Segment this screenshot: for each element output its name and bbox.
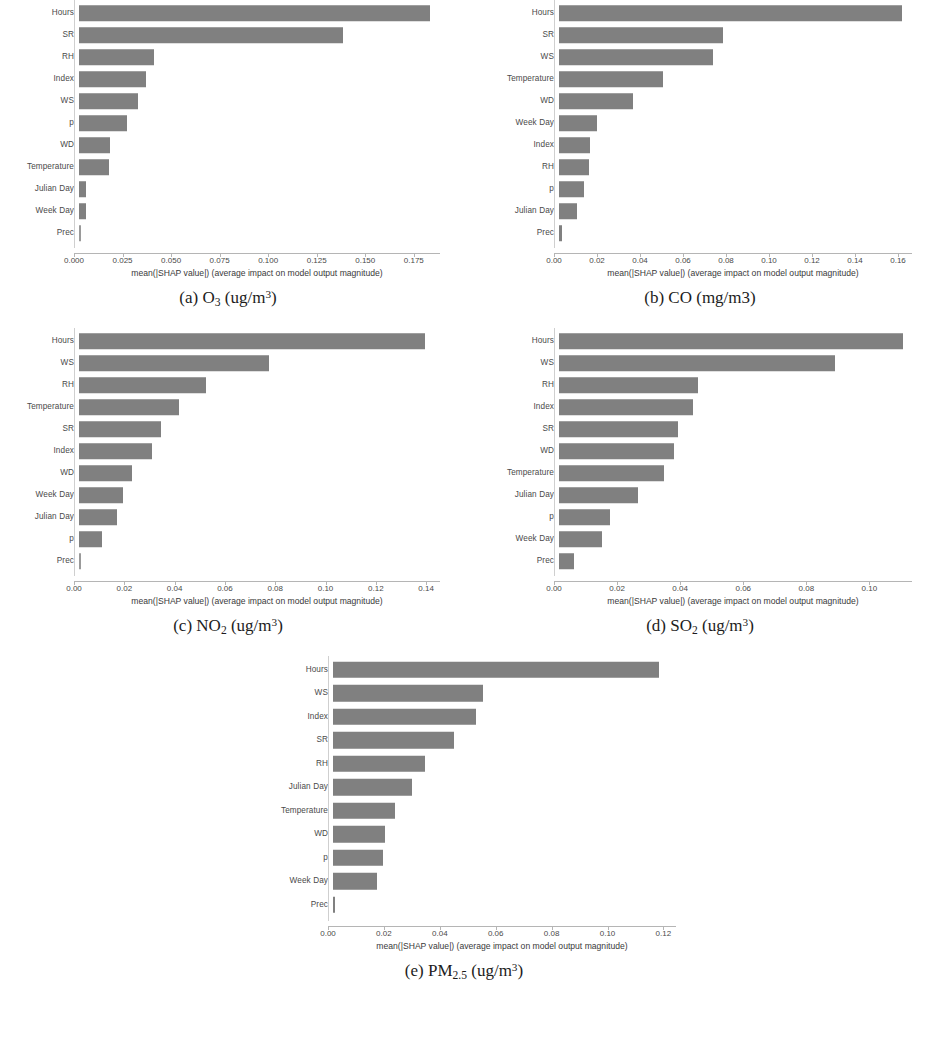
bar: [333, 826, 385, 843]
bar-track: [559, 2, 926, 24]
caption-units-pre: (ug/m: [231, 617, 272, 636]
x-axis-ticks: 0.000.020.040.060.080.10: [554, 582, 912, 596]
bar: [559, 27, 723, 43]
tick-label: 0.150: [355, 257, 375, 265]
bar-track: [79, 352, 454, 374]
bar-track: [79, 396, 454, 418]
bar-track: [79, 222, 454, 244]
caption-units-post: ): [271, 289, 277, 308]
bar: [79, 465, 132, 481]
bar: [79, 115, 127, 131]
caption-units-pre: (ug/m: [702, 617, 743, 636]
tick-label: 0.02: [609, 585, 625, 593]
bar-row: p: [474, 178, 926, 200]
bar: [79, 49, 154, 65]
bar-row: Hours: [2, 2, 454, 24]
tick-label: 0.04: [167, 585, 183, 593]
tick-label: 0.02: [589, 257, 605, 265]
bar: [559, 5, 902, 21]
bar-row: Hours: [474, 330, 926, 352]
bar-row: Temperature: [238, 799, 690, 823]
bar-track: [333, 823, 690, 847]
panel-pm25: HoursWSIndexSRRHJulian DayTemperatureWDp…: [238, 658, 690, 982]
plot-area-c: HoursWSRHTemperatureSRIndexWDWeek DayJul…: [2, 330, 454, 606]
bar-row: Index: [2, 440, 454, 462]
bar: [559, 487, 638, 503]
bar-row: WS: [2, 352, 454, 374]
feature-label: Index: [238, 713, 333, 721]
caption-subscript: 2: [692, 625, 698, 638]
feature-label: SR: [474, 31, 559, 39]
bar: [559, 49, 713, 65]
tick-label: 0.12: [368, 585, 384, 593]
bar-row: p: [2, 528, 454, 550]
tick-label: 0.050: [161, 257, 181, 265]
feature-label: Julian Day: [2, 513, 79, 521]
caption-index: (a): [179, 289, 198, 308]
feature-label: Julian Day: [2, 185, 79, 193]
tick-label: 0.08: [799, 585, 815, 593]
feature-label: WD: [238, 830, 333, 838]
bar: [79, 27, 343, 43]
panel-co: HoursSRWSTemperatureWDWeek DayIndexRHpJu…: [474, 2, 926, 310]
bar-track: [559, 90, 926, 112]
bar-track: [559, 134, 926, 156]
bar: [333, 850, 383, 867]
bar: [559, 333, 903, 349]
bar-track: [559, 374, 926, 396]
bar: [333, 803, 395, 820]
feature-label: Index: [2, 447, 79, 455]
caption-units-pre: (ug/m: [471, 961, 512, 980]
tick-label: 0.06: [735, 585, 751, 593]
x-axis-ticks: 0.000.020.040.060.080.100.12: [328, 927, 676, 941]
bar-track: [559, 506, 926, 528]
bar-row: RH: [474, 156, 926, 178]
y-axis-spine: [554, 328, 555, 576]
bar: [79, 531, 102, 547]
feature-label: WS: [474, 359, 559, 367]
plot-area-d: HoursWSRHIndexSRWDTemperatureJulian Dayp…: [474, 330, 926, 606]
bar: [559, 71, 663, 87]
caption-species: O: [202, 289, 214, 308]
bar: [79, 93, 138, 109]
feature-label: RH: [474, 163, 559, 171]
bar-row: WD: [2, 134, 454, 156]
panel-caption: (c) NO2 (ug/m3): [2, 616, 454, 637]
x-axis-title: mean(|SHAP value|) (average impact on mo…: [74, 597, 440, 606]
bar-row: RH: [238, 752, 690, 776]
bar: [79, 181, 86, 197]
bar-track: [79, 462, 454, 484]
x-axis-title: mean(|SHAP value|) (average impact on mo…: [554, 597, 912, 606]
bar-track: [79, 484, 454, 506]
feature-label: p: [238, 854, 333, 862]
feature-label: Prec: [2, 229, 79, 237]
feature-label: Julian Day: [474, 207, 559, 215]
bar-row: Julian Day: [474, 484, 926, 506]
x-axis: 0.000.020.040.060.080.100.120.14mean(|SH…: [74, 581, 440, 606]
caption-species: PM: [428, 961, 453, 980]
feature-label: Hours: [474, 337, 559, 345]
feature-label: Prec: [474, 229, 559, 237]
bar-track: [559, 222, 926, 244]
bar-track: [79, 46, 454, 68]
tick-label: 0.02: [117, 585, 133, 593]
tick-label: 0.14: [847, 257, 863, 265]
bar-track: [559, 528, 926, 550]
feature-label: p: [474, 185, 559, 193]
bar-row: WS: [2, 90, 454, 112]
shap-figure: HoursSRRHIndexWSpWDTemperatureJulian Day…: [0, 0, 928, 1055]
bar-row: SR: [238, 729, 690, 753]
feature-label: Temperature: [2, 403, 79, 411]
caption-index: (e): [405, 961, 424, 980]
tick-label: 0.075: [210, 257, 230, 265]
bar-track: [559, 68, 926, 90]
bar-row: Temperature: [474, 68, 926, 90]
bar-rows: HoursWSIndexSRRHJulian DayTemperatureWDp…: [238, 658, 690, 917]
caption-units-post: ): [748, 617, 754, 636]
bar-track: [333, 799, 690, 823]
tick-label: 0.00: [546, 257, 562, 265]
tick-label: 0.175: [404, 257, 424, 265]
bar: [559, 355, 835, 371]
bar-row: SR: [2, 24, 454, 46]
panel-so2: HoursWSRHIndexSRWDTemperatureJulian Dayp…: [474, 330, 926, 638]
